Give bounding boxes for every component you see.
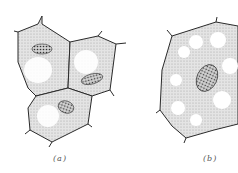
panel-a-label: (a) <box>53 154 67 163</box>
panel-b <box>156 17 238 143</box>
panel-b-label: (b) <box>203 154 217 163</box>
cell-diagram: (a) (b) <box>0 0 238 173</box>
panel-a <box>14 16 126 147</box>
cell-drawing <box>0 0 238 173</box>
